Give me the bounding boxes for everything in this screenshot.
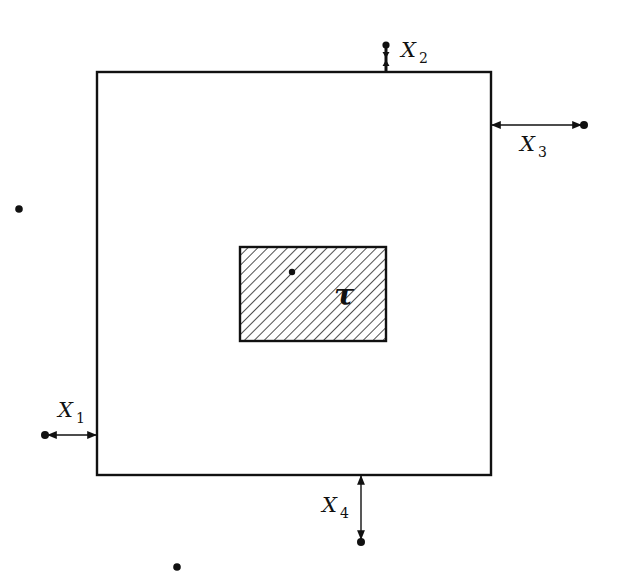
- label-x4: X4: [322, 495, 349, 516]
- arrow-x2: [382, 41, 389, 71]
- label-x2: X2: [401, 40, 428, 61]
- free-point-bottom: [173, 563, 181, 571]
- label-x1-sub: 1: [76, 410, 85, 426]
- label-x3: X3: [520, 134, 547, 155]
- free-point-left: [15, 205, 23, 213]
- label-x4-sub: 4: [340, 505, 349, 521]
- diagram-canvas: [0, 0, 620, 586]
- arrow-x4: [357, 476, 365, 546]
- inner-hatched-region: [240, 247, 386, 341]
- inner-point: [289, 269, 295, 275]
- label-x2-main: X: [401, 38, 416, 62]
- label-x2-sub: 2: [419, 50, 428, 66]
- label-x1-main: X: [58, 398, 73, 422]
- label-tau: τ: [334, 280, 354, 310]
- arrow-x1: [41, 431, 96, 439]
- label-x3-sub: 3: [538, 144, 547, 160]
- arrow-x3: [492, 121, 588, 129]
- label-x4-main: X: [322, 493, 337, 517]
- label-x3-main: X: [520, 132, 535, 156]
- label-x1: X1: [58, 400, 85, 421]
